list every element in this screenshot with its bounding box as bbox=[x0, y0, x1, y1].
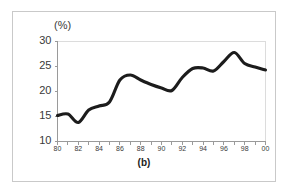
svg-text:25: 25 bbox=[39, 59, 51, 71]
figure-caption: (b) bbox=[0, 157, 288, 168]
svg-text:82: 82 bbox=[74, 145, 82, 152]
svg-text:92: 92 bbox=[178, 145, 186, 152]
svg-text:15: 15 bbox=[39, 109, 51, 121]
grid-lines bbox=[58, 42, 266, 142]
svg-text:98: 98 bbox=[241, 145, 249, 152]
svg-text:94: 94 bbox=[199, 145, 207, 152]
svg-text:80: 80 bbox=[54, 145, 62, 152]
svg-text:86: 86 bbox=[116, 145, 124, 152]
svg-text:30: 30 bbox=[39, 34, 51, 46]
x-tick-labels: 8082848688909294969800 bbox=[54, 145, 270, 152]
svg-text:90: 90 bbox=[158, 145, 166, 152]
y-axis bbox=[55, 42, 58, 142]
x-axis bbox=[58, 142, 266, 145]
data-series-line bbox=[58, 52, 266, 122]
svg-text:20: 20 bbox=[39, 84, 51, 96]
y-tick-labels: 1015202530 bbox=[39, 34, 51, 146]
svg-text:10: 10 bbox=[39, 134, 51, 146]
svg-text:00: 00 bbox=[262, 145, 270, 152]
svg-text:84: 84 bbox=[95, 145, 103, 152]
svg-text:88: 88 bbox=[137, 145, 145, 152]
figure-container: (%) 1015202530 8082848688909294969800 (b… bbox=[0, 0, 288, 194]
svg-text:96: 96 bbox=[220, 145, 228, 152]
